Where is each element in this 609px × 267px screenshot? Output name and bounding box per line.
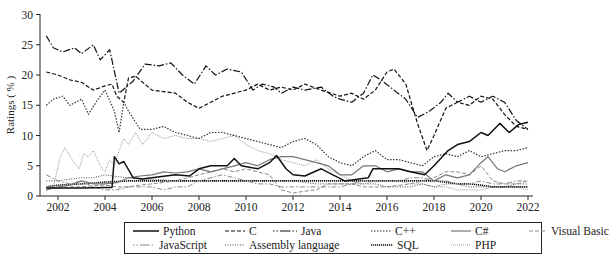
dotted-line-icon [225, 242, 245, 248]
y-tick-label: 10 [22, 130, 34, 142]
dashed-line-icon [529, 228, 547, 234]
y-tick-label: 5 [27, 160, 33, 172]
x-tick-label: 2010 [235, 201, 258, 213]
solid-line-icon [133, 228, 159, 234]
legend-item-php: PHP [451, 238, 496, 252]
legend-label: Assembly language [249, 239, 339, 251]
legend-item-visual-basic-entry: Visual Basic [529, 224, 609, 238]
legend-item-c-sharp-entry: C# [451, 224, 488, 238]
dense-dotted-line-icon [371, 242, 393, 248]
legend-label: SQL [397, 239, 419, 251]
x-tick-label: 2006 [141, 201, 164, 213]
legend-item-assembly: Assembly language [225, 238, 339, 252]
y-tick-label: 30 [22, 9, 34, 21]
x-tick-label: 2014 [329, 201, 352, 213]
series-c-line [46, 157, 528, 190]
legend-label: C [249, 225, 257, 237]
legend-label: Python [163, 225, 196, 237]
dash-dot-line-icon [273, 228, 297, 234]
x-tick-label: 2002 [47, 201, 70, 213]
legend-item-cpp: C++ [371, 224, 416, 238]
x-ticks: 2002200420062008201020122014201620182020… [47, 196, 540, 213]
legend-label: C# [475, 225, 488, 237]
series-c-line [46, 69, 528, 151]
series-python-line [46, 122, 528, 188]
x-tick-label: 2008 [188, 201, 211, 213]
axes: 051015202530 200220042006200820102012201… [4, 9, 540, 214]
y-tick-label: 15 [22, 99, 34, 111]
legend-label: JavaScript [159, 239, 207, 251]
series-c-line [46, 90, 528, 166]
legend-item-c: C [225, 224, 257, 238]
x-tick-label: 2016 [376, 201, 399, 213]
solid-line-icon [451, 228, 471, 234]
dashed-line-icon [225, 228, 245, 234]
legend-label: PHP [475, 239, 496, 251]
y-tick-label: 0 [27, 190, 33, 202]
series-lines [46, 36, 528, 193]
legend-item-python: Python [133, 224, 196, 238]
x-tick-label: 2018 [423, 201, 446, 213]
x-tick-label: 2020 [470, 201, 493, 213]
x-tick-label: 2012 [282, 201, 305, 213]
legend: Python C Java C++ C# Visual Basic JavaSc… [124, 222, 542, 254]
legend-item-java: Java [273, 224, 321, 238]
legend-label: Visual Basic [551, 225, 609, 237]
legend-label: C++ [395, 225, 416, 237]
y-tick-label: 20 [22, 69, 34, 81]
x-tick-label: 2022 [517, 201, 540, 213]
y-ticks: 051015202530 [22, 9, 41, 203]
dotted-line-icon [451, 242, 471, 248]
dash-dot-line-icon [133, 242, 155, 248]
x-tick-label: 2004 [94, 201, 117, 213]
legend-label: Java [301, 225, 321, 237]
legend-item-sql: SQL [371, 238, 419, 252]
series-java-line [46, 36, 528, 130]
dotted-line-icon [371, 228, 391, 234]
y-tick-label: 25 [22, 39, 34, 51]
legend-item-javascript: JavaScript [133, 238, 207, 252]
y-axis-label: Ratings ( % ) [4, 75, 17, 134]
